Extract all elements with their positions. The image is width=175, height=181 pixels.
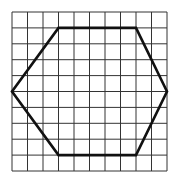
square-grid xyxy=(12,12,167,171)
grid-hexagon-diagram xyxy=(0,0,175,181)
